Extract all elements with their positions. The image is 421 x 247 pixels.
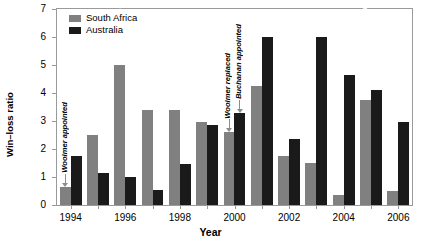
x-tick-mark (398, 205, 399, 209)
bar-group (303, 9, 330, 205)
x-tick-label: 2004 (324, 212, 364, 223)
bar-australia[interactable] (71, 156, 82, 205)
bar-group (166, 9, 193, 205)
x-tick-mark (71, 205, 72, 209)
x-tick-mark (207, 205, 208, 209)
annotation-won-18-of-24: Won 18 out of 24, 13 in a row (Zim, WI, … (361, 0, 369, 96)
bar-south-africa[interactable] (251, 86, 262, 205)
bar-group (275, 9, 302, 205)
x-tick-mark (371, 205, 372, 209)
x-tick-mark (98, 205, 99, 209)
y-tick-mark (52, 149, 56, 150)
x-tick-mark (316, 205, 317, 209)
plot-area: Woolmer appointedWon 25 out of 30Woolmer… (56, 8, 413, 206)
y-tick-label: 6 (22, 32, 46, 42)
bar-group (385, 9, 412, 205)
y-tick-label: 0 (22, 200, 46, 210)
bar-group (248, 9, 275, 205)
bar-group (194, 9, 221, 205)
bar-south-africa[interactable] (224, 132, 235, 205)
bar-south-africa[interactable] (169, 110, 180, 205)
y-tick-label: 1 (22, 172, 46, 182)
bar-australia[interactable] (398, 122, 409, 205)
x-tick-mark (344, 205, 345, 209)
y-tick-label: 2 (22, 144, 46, 154)
bar-south-africa[interactable] (360, 100, 371, 205)
annotation-arrow-woolmer-replaced (226, 119, 233, 132)
bar-australia[interactable] (371, 90, 382, 205)
bar-australia[interactable] (289, 139, 300, 205)
y-tick-mark (52, 121, 56, 122)
y-tick-label: 5 (22, 60, 46, 70)
bar-group (330, 9, 357, 205)
x-axis-label: Year (0, 226, 421, 238)
bar-australia[interactable] (125, 177, 136, 205)
legend-swatch-south-africa (69, 15, 81, 22)
x-tick-label: 1994 (51, 212, 91, 223)
annotation-arrow-woolmer-appointed (62, 174, 69, 187)
bar-group (139, 9, 166, 205)
bar-australia[interactable] (262, 37, 273, 205)
x-tick-mark (235, 205, 236, 209)
y-tick-label: 3 (22, 116, 46, 126)
x-tick-mark (289, 205, 290, 209)
win-loss-ratio-chart: Win–loss ratio Woolmer appointedWon 25 o… (0, 0, 421, 247)
x-tick-label: 2000 (215, 212, 255, 223)
bar-australia[interactable] (344, 75, 355, 205)
bar-australia[interactable] (180, 164, 191, 205)
annotation-woolmer-appointed: Woolmer appointed (61, 102, 69, 173)
annotation-woolmer-replaced: Woolmer replaced (224, 53, 232, 119)
x-tick-label: 1996 (105, 212, 145, 223)
legend-label-south-africa: South Africa (86, 12, 137, 24)
bar-south-africa[interactable] (60, 187, 71, 205)
bar-australia[interactable] (234, 113, 245, 205)
legend-label-australia: Australia (86, 24, 123, 36)
bar-south-africa[interactable] (387, 191, 398, 205)
bar-south-africa[interactable] (333, 195, 344, 205)
bar-south-africa[interactable] (196, 122, 207, 205)
legend-item-australia: Australia (69, 24, 137, 36)
bar-south-africa[interactable] (87, 135, 98, 205)
y-tick-mark (52, 93, 56, 94)
plot-inner: Woolmer appointedWon 25 out of 30Woolmer… (57, 9, 412, 205)
annotation-buchanan-appointed: Buchanan appointed (235, 24, 243, 99)
legend: South Africa Australia (69, 12, 137, 36)
x-tick-label: 2002 (269, 212, 309, 223)
x-tick-mark (125, 205, 126, 209)
annotation-arrow-buchanan-appointed (236, 100, 243, 113)
bar-south-africa[interactable] (142, 110, 153, 205)
x-tick-label: 2006 (378, 212, 418, 223)
x-tick-mark (262, 205, 263, 209)
y-tick-label: 4 (22, 88, 46, 98)
y-tick-mark (52, 177, 56, 178)
y-axis-label: Win–loss ratio (2, 62, 16, 188)
x-tick-label: 1998 (160, 212, 200, 223)
y-tick-label: 7 (22, 4, 46, 14)
x-tick-mark (153, 205, 154, 209)
legend-item-south-africa: South Africa (69, 12, 137, 24)
y-tick-mark (52, 37, 56, 38)
y-tick-mark (52, 205, 56, 206)
bar-australia[interactable] (207, 125, 218, 205)
bar-south-africa[interactable] (305, 163, 316, 205)
bar-australia[interactable] (316, 37, 327, 205)
bar-australia[interactable] (153, 190, 164, 205)
bar-group (84, 9, 111, 205)
x-tick-mark (180, 205, 181, 209)
legend-swatch-australia (69, 27, 81, 34)
bar-australia[interactable] (98, 173, 109, 205)
bar-south-africa[interactable] (278, 156, 289, 205)
bar-south-africa[interactable] (114, 65, 125, 205)
y-tick-mark (52, 9, 56, 10)
y-tick-mark (52, 65, 56, 66)
